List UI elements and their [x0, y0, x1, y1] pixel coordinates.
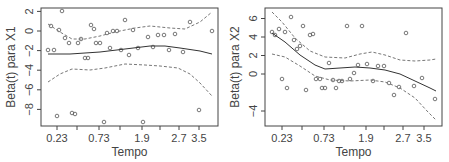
- data-point: [102, 120, 106, 124]
- smooth-curve: [272, 33, 436, 91]
- data-point: [98, 41, 102, 45]
- x-tick-label: 0.23: [271, 132, 292, 144]
- x-tick-label: 3.5: [191, 132, 206, 144]
- data-point: [156, 33, 160, 37]
- data-point: [285, 86, 289, 90]
- y-tick-label: −6: [23, 84, 35, 97]
- data-point: [376, 64, 380, 68]
- data-point: [404, 31, 408, 35]
- y-tick-label: −4: [23, 64, 35, 77]
- y-tick-label: 0: [23, 28, 35, 34]
- chart-panel-x2: 6420−40.230.731.92.73.5TempoBeta(t) para…: [224, 0, 449, 162]
- data-point: [334, 86, 338, 90]
- x-tick-label: 1.9: [358, 132, 373, 144]
- data-point: [382, 64, 386, 68]
- data-point: [197, 108, 201, 112]
- y-tick-label: 6: [247, 15, 259, 21]
- data-point: [146, 35, 150, 39]
- data-point: [55, 114, 59, 118]
- data-point: [94, 41, 98, 45]
- data-point: [352, 71, 356, 75]
- data-point: [123, 18, 127, 22]
- data-point: [301, 24, 305, 28]
- data-point: [63, 36, 67, 40]
- data-point: [92, 27, 96, 31]
- x-tick-label: 1.9: [134, 132, 149, 144]
- data-point: [181, 50, 185, 54]
- data-point: [277, 27, 281, 31]
- data-point: [345, 24, 349, 28]
- x-tick-label: 0.73: [313, 132, 334, 144]
- y-tick-label: 2: [247, 52, 259, 58]
- y-axis-title: Beta(t) para X1: [4, 26, 18, 108]
- data-point: [392, 93, 396, 97]
- x-axis-title: Tempo: [111, 145, 147, 159]
- data-point: [356, 63, 360, 67]
- y-tick-label: −8: [23, 103, 35, 116]
- data-point: [283, 30, 287, 34]
- x-tick-label: 0.73: [88, 132, 109, 144]
- data-point: [298, 44, 302, 48]
- smooth-curve: [48, 46, 212, 54]
- data-point: [127, 53, 131, 57]
- x-tick-label: 2.7: [171, 132, 186, 144]
- data-point: [420, 76, 424, 80]
- y-tick-label: 0: [247, 71, 259, 77]
- data-point: [327, 61, 331, 65]
- x-axis-title: Tempo: [335, 145, 371, 159]
- data-point: [52, 48, 56, 52]
- y-tick-label: 4: [247, 34, 259, 40]
- y-tick-label: −2: [23, 44, 35, 57]
- data-point: [173, 32, 177, 36]
- data-point: [67, 41, 71, 45]
- data-point: [188, 20, 192, 24]
- chart-panel-x1: 20−2−4−6−80.230.731.92.73.5TempoBeta(t) …: [0, 0, 224, 162]
- data-point: [108, 46, 112, 50]
- data-point: [162, 33, 166, 37]
- data-point: [76, 41, 80, 45]
- data-point: [314, 77, 318, 81]
- data-point: [46, 48, 50, 52]
- data-point: [433, 97, 437, 101]
- confidence-band: [48, 64, 212, 96]
- x-tick-label: 2.7: [395, 132, 410, 144]
- y-tick-label: 2: [23, 8, 35, 14]
- data-point: [412, 84, 416, 88]
- data-point: [289, 15, 293, 19]
- chart-x1-svg: 20−2−4−6−80.230.731.92.73.5TempoBeta(t) …: [0, 0, 224, 162]
- data-point: [348, 77, 352, 81]
- confidence-band: [272, 54, 436, 120]
- data-point: [89, 23, 93, 27]
- data-point: [304, 88, 308, 92]
- chart-x2-svg: 6420−40.230.731.92.73.5TempoBeta(t) para…: [224, 0, 449, 162]
- data-point: [60, 9, 64, 13]
- data-point: [141, 120, 145, 124]
- confidence-band: [48, 12, 212, 39]
- data-point: [210, 29, 214, 33]
- data-point: [365, 62, 369, 66]
- y-tick-label: −4: [247, 105, 259, 118]
- x-tick-label: 0.23: [46, 132, 67, 144]
- x-tick-label: 3.5: [416, 132, 431, 144]
- data-point: [295, 47, 299, 51]
- y-axis-title: Beta(t) para X2: [228, 26, 242, 108]
- confidence-band: [272, 12, 436, 61]
- data-point: [280, 77, 284, 81]
- data-point: [360, 24, 364, 28]
- data-point: [167, 48, 171, 52]
